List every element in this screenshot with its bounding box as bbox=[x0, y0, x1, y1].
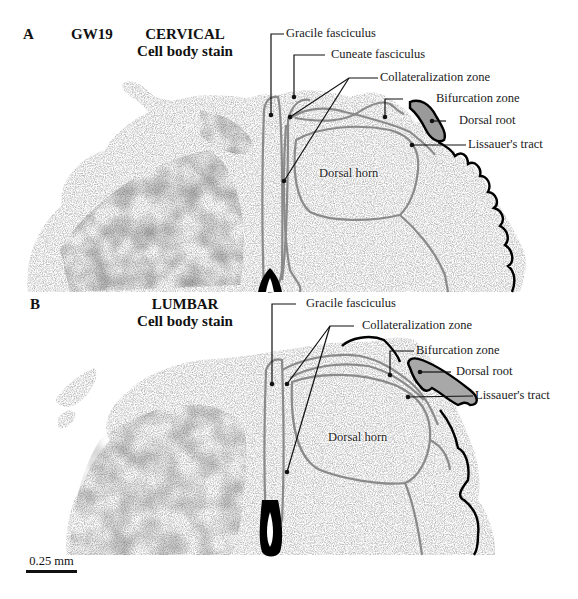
label-collateralization-zone-a: Collateralization zone bbox=[380, 70, 490, 85]
panel-b-title: LUMBAR Cell body stain bbox=[130, 296, 240, 330]
label-dorsal-root-a: Dorsal root bbox=[459, 113, 516, 128]
panel-a-level: CERVICAL bbox=[130, 26, 240, 43]
panel-a-section bbox=[27, 81, 525, 292]
scale-bar: 0.25 mm bbox=[26, 554, 77, 573]
tissue-illustration bbox=[0, 0, 578, 599]
label-lissauers-tract-b: Lissauer's tract bbox=[475, 388, 550, 403]
label-dorsal-horn-a: Dorsal horn bbox=[319, 166, 378, 181]
label-bifurcation-zone-a: Bifurcation zone bbox=[436, 91, 520, 106]
label-collateralization-zone-b: Collateralization zone bbox=[362, 318, 472, 333]
scale-bar-line bbox=[26, 570, 77, 573]
panel-a-title: CERVICAL Cell body stain bbox=[130, 26, 240, 60]
figure: A GW19 CERVICAL Cell body stain Gracile … bbox=[0, 0, 578, 599]
label-cuneate-fasciculus-a: Cuneate fasciculus bbox=[331, 47, 425, 62]
panel-b-level: LUMBAR bbox=[130, 296, 240, 313]
scale-bar-label: 0.25 mm bbox=[26, 554, 77, 569]
label-dorsal-horn-b: Dorsal horn bbox=[328, 430, 387, 445]
panel-a-stain: Cell body stain bbox=[130, 43, 240, 60]
label-lissauers-tract-a: Lissauer's tract bbox=[468, 137, 543, 152]
panel-a-age: GW19 bbox=[71, 26, 113, 43]
panel-a-letter: A bbox=[23, 26, 34, 43]
panel-b-stain: Cell body stain bbox=[130, 313, 240, 330]
label-dorsal-root-b: Dorsal root bbox=[456, 364, 513, 379]
label-gracile-fasciculus-b: Gracile fasciculus bbox=[306, 296, 396, 311]
panel-b-letter: B bbox=[30, 296, 40, 313]
label-gracile-fasciculus-a: Gracile fasciculus bbox=[286, 26, 376, 41]
label-bifurcation-zone-b: Bifurcation zone bbox=[416, 343, 500, 358]
panel-b-section bbox=[55, 337, 495, 556]
